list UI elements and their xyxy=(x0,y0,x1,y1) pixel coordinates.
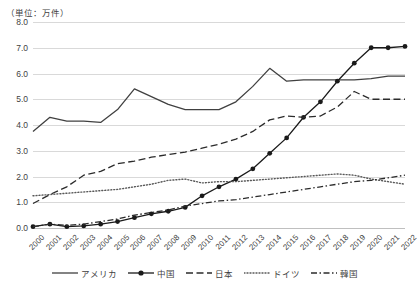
legend-swatch-icon xyxy=(186,268,212,278)
y-tick-label: 8.0 xyxy=(16,17,28,27)
data-point-marker xyxy=(267,151,272,156)
legend-item-3[interactable]: ドイツ xyxy=(244,267,300,279)
data-point-marker xyxy=(403,44,408,49)
x-axis-labels: 2000200120022003200420052006200720082009… xyxy=(33,231,405,263)
series-line-4 xyxy=(33,175,405,227)
y-tick-label: 3.0 xyxy=(16,146,28,156)
chart-legend: アメリカ中国日本ドイツ韓国 xyxy=(0,264,410,282)
legend-label: 中国 xyxy=(157,267,175,279)
series-line-1 xyxy=(33,46,405,226)
legend-label: 日本 xyxy=(215,267,233,279)
data-point-marker xyxy=(234,177,239,182)
series-lines xyxy=(33,22,405,228)
data-point-marker xyxy=(318,99,323,104)
data-point-marker xyxy=(217,184,222,189)
data-point-marker xyxy=(386,45,391,50)
legend-swatch-icon xyxy=(52,268,78,278)
legend-label: 韓国 xyxy=(340,267,358,279)
legend-swatch-icon xyxy=(311,268,337,278)
legend-item-0[interactable]: アメリカ xyxy=(52,267,117,279)
y-tick-label: 5.0 xyxy=(16,94,28,104)
data-point-marker xyxy=(115,219,120,224)
legend-label: ドイツ xyxy=(273,267,300,279)
y-tick-label: 2.0 xyxy=(16,172,28,182)
y-tick-label: 7.0 xyxy=(16,43,28,53)
legend-item-2[interactable]: 日本 xyxy=(186,267,233,279)
y-tick-label: 4.0 xyxy=(16,120,28,130)
plot-area: 0.01.02.03.04.05.06.07.08.0 xyxy=(33,22,405,228)
data-point-marker xyxy=(284,135,289,140)
data-point-marker xyxy=(369,45,374,50)
data-point-marker xyxy=(200,193,205,198)
legend-swatch-icon xyxy=(244,268,270,278)
legend-item-1[interactable]: 中国 xyxy=(128,267,175,279)
data-point-marker xyxy=(352,61,357,66)
data-point-marker xyxy=(250,166,255,171)
y-tick-label: 1.0 xyxy=(16,197,28,207)
data-point-marker xyxy=(335,79,340,84)
y-tick-label: 6.0 xyxy=(16,69,28,79)
gridline xyxy=(33,228,405,229)
legend-swatch-icon xyxy=(128,268,154,278)
legend-label: アメリカ xyxy=(81,267,117,279)
series-line-0 xyxy=(33,68,405,131)
y-tick-label: 0.0 xyxy=(16,223,28,233)
legend-item-4[interactable]: 韓国 xyxy=(311,267,358,279)
